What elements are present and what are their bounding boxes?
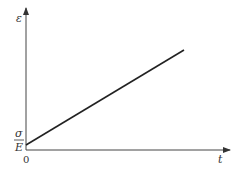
y-axis-label: ε [16, 12, 22, 25]
strain-time-diagram: ε t 0 σ E [0, 0, 240, 170]
strain-line [26, 50, 184, 145]
origin-label: 0 [23, 154, 29, 165]
intercept-denominator: E [14, 141, 23, 154]
x-axis-label: t [218, 153, 223, 166]
intercept-numerator: σ [15, 127, 23, 140]
